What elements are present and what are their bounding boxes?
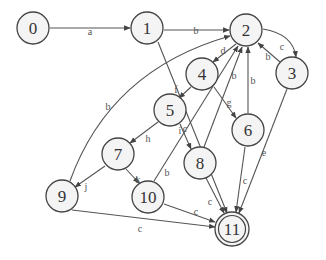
edge-label-9-2: b bbox=[106, 101, 111, 112]
edge-4-5 bbox=[179, 87, 191, 98]
edge-5-7 bbox=[130, 122, 158, 143]
edge-label-2-4: d bbox=[221, 45, 226, 56]
state-label-7: 7 bbox=[114, 145, 123, 164]
edge-label-10-2: b bbox=[165, 167, 170, 178]
edge-10-11 bbox=[164, 204, 215, 222]
edge-label-3-11: e bbox=[262, 147, 267, 158]
state-label-6: 6 bbox=[244, 121, 253, 140]
edge-label-10-11: c bbox=[194, 206, 199, 217]
edge-label-5-8: i bbox=[179, 125, 182, 136]
state-node-1: 1 bbox=[131, 12, 163, 44]
edge-label-1-2: b bbox=[194, 25, 199, 36]
state-label-1: 1 bbox=[143, 19, 152, 38]
edge-label-3-2: b bbox=[266, 51, 271, 62]
state-label-8: 8 bbox=[196, 154, 205, 173]
edge-label-4-5: f bbox=[174, 84, 178, 95]
diagram-svg: a b c c b d f g b bbox=[0, 0, 326, 260]
state-label-2: 2 bbox=[242, 21, 251, 40]
state-node-6: 6 bbox=[232, 114, 264, 146]
state-label-0: 0 bbox=[29, 19, 38, 38]
state-node-2: 2 bbox=[230, 14, 262, 46]
state-node-9: 9 bbox=[46, 180, 78, 212]
edge-label-8-2: b bbox=[232, 70, 237, 81]
edge-label-0-1: a bbox=[88, 26, 93, 37]
edge-label-7-9: j bbox=[84, 181, 88, 192]
state-node-5: 5 bbox=[154, 94, 186, 126]
edge-label-6-2: b bbox=[251, 75, 256, 86]
state-label-11: 11 bbox=[224, 220, 240, 239]
state-diagram: a b c c b d f g b bbox=[0, 0, 326, 260]
state-label-9: 9 bbox=[58, 187, 67, 206]
state-label-4: 4 bbox=[198, 65, 207, 84]
nodes: 0 1 2 3 4 5 6 bbox=[17, 12, 308, 246]
edge-label-2-3: c bbox=[280, 41, 285, 52]
edge-label-9-11: c bbox=[138, 223, 143, 234]
state-node-4: 4 bbox=[186, 58, 218, 90]
state-node-3: 3 bbox=[276, 57, 308, 89]
state-node-10: 10 bbox=[132, 181, 164, 213]
state-label-5: 5 bbox=[166, 101, 175, 120]
edge-7-9 bbox=[75, 166, 105, 187]
edge-label-8-11: c bbox=[208, 196, 213, 207]
state-node-0: 0 bbox=[17, 12, 49, 44]
accepting-state-node-11: 11 bbox=[215, 212, 249, 246]
edge-label-5-7: h bbox=[146, 133, 151, 144]
edge-label-6-11: c bbox=[243, 175, 248, 186]
state-label-3: 3 bbox=[288, 64, 297, 83]
state-label-10: 10 bbox=[140, 188, 157, 207]
state-node-7: 7 bbox=[102, 138, 134, 170]
state-node-8: 8 bbox=[184, 147, 216, 179]
edge-label-4-6: g bbox=[227, 97, 232, 108]
